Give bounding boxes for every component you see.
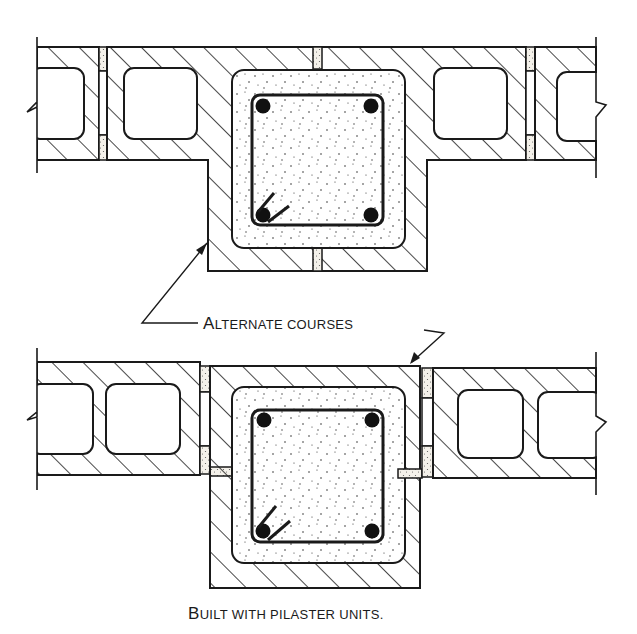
rebar: [365, 524, 380, 539]
rebar: [364, 99, 379, 114]
left-partial-block: [30, 47, 99, 160]
rebar: [365, 413, 380, 428]
alternate-courses-initial: A: [203, 314, 215, 333]
break-line-right: [596, 350, 617, 500]
rebar: [364, 208, 379, 223]
rebar: [256, 524, 271, 539]
rebar: [257, 413, 272, 428]
alternate-courses-label: ALTERNATE COURSES: [203, 314, 353, 334]
head-joint-left: [99, 47, 107, 71]
left-block: [30, 362, 200, 475]
right-block: [433, 368, 603, 478]
alternate-courses-text: LTERNATE COURSES: [215, 317, 354, 332]
break-line-left: [20, 35, 37, 175]
pilaster-unit-bottom: [210, 366, 420, 588]
break-line-left: [20, 348, 37, 493]
grouted-core: [232, 387, 405, 563]
figure-caption-text: UILT WITH PILASTER UNITS.: [200, 607, 384, 622]
rebar: [256, 99, 271, 114]
figure-caption-initial: B: [188, 604, 200, 623]
top-course-view: [20, 35, 617, 271]
break-line-right: [596, 35, 617, 178]
figure-caption: BUILT WITH PILASTER UNITS.: [188, 604, 384, 624]
bottom-course-view: [20, 348, 617, 588]
pilaster-unit-top: [107, 47, 526, 271]
